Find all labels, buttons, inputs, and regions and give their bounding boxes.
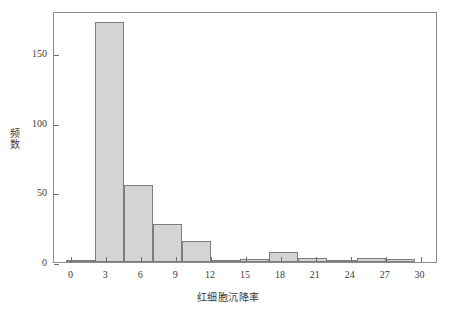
y-axis-tick-label: 100: [23, 118, 47, 129]
histogram-figure: 050100150036912151821242730 红细胞沉降率 频数: [0, 0, 456, 313]
y-axis-tick-label: 0: [23, 257, 47, 268]
y-axis-title: 频数: [8, 128, 18, 149]
x-axis-tick: [176, 257, 177, 262]
x-axis-tick: [106, 257, 107, 262]
x-axis-tick-label: 12: [205, 269, 215, 280]
y-axis-tick-group: [54, 13, 436, 262]
x-axis-tick: [386, 257, 387, 262]
x-axis-tick: [71, 257, 72, 262]
y-axis-tick: [54, 125, 59, 126]
y-axis-tick-label: 150: [23, 48, 47, 59]
y-axis-tick: [54, 194, 59, 195]
x-axis-title: 红细胞沉降率: [0, 289, 456, 304]
x-axis-tick: [421, 257, 422, 262]
x-axis-tick-label: 18: [275, 269, 285, 280]
x-axis-tick-label: 0: [68, 269, 73, 280]
x-axis-tick-label: 15: [240, 269, 250, 280]
x-axis-tick: [211, 257, 212, 262]
x-axis-tick: [281, 257, 282, 262]
y-axis-tick-label: 50: [23, 187, 47, 198]
y-axis-tick: [54, 264, 59, 265]
x-axis-tick: [316, 257, 317, 262]
x-axis-tick-label: 30: [415, 269, 425, 280]
x-axis-tick: [246, 257, 247, 262]
x-axis-tick-label: 27: [380, 269, 390, 280]
x-axis-tick-label: 6: [138, 269, 143, 280]
x-axis-tick-label: 21: [310, 269, 320, 280]
y-axis-tick: [54, 55, 59, 56]
plot-frame: [53, 12, 437, 263]
x-axis-tick-label: 9: [173, 269, 178, 280]
x-axis-tick-label: 24: [345, 269, 355, 280]
x-axis-tick-label: 3: [103, 269, 108, 280]
x-axis-tick: [141, 257, 142, 262]
x-axis-tick: [351, 257, 352, 262]
